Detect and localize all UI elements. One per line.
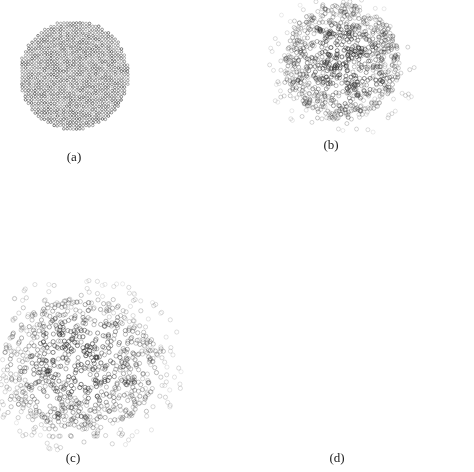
scatter-canvas <box>0 0 474 472</box>
particle-distribution-figure: (a) (b) (c) (d) <box>0 0 474 472</box>
panel-label-d: (d) <box>329 450 344 466</box>
panel-label-b: (b) <box>323 137 338 153</box>
panel-label-c: (c) <box>66 450 80 466</box>
panel-label-a: (a) <box>67 149 81 165</box>
